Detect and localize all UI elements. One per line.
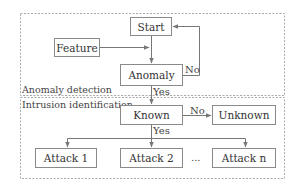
attack-n-node: Attack n <box>212 148 276 168</box>
known-no-label: No <box>190 105 205 117</box>
known-node: Known <box>120 105 183 125</box>
intrusion-identification-label: Intrusion identification <box>22 99 133 110</box>
attack-2-node: Attack 2 <box>120 148 183 168</box>
anomaly-yes-label: Yes <box>153 86 170 98</box>
ellipsis-label: ... <box>191 152 201 164</box>
start-node: Start <box>130 17 172 36</box>
anomaly-detection-label: Anomaly detection <box>22 84 112 95</box>
unknown-node: Unknown <box>212 105 276 125</box>
anomaly-no-label: No <box>185 64 200 76</box>
feature-node: Feature <box>54 38 100 57</box>
anomaly-node: Anomaly <box>120 64 183 86</box>
known-yes-label: Yes <box>153 125 170 137</box>
attack-1-node: Attack 1 <box>35 148 97 168</box>
